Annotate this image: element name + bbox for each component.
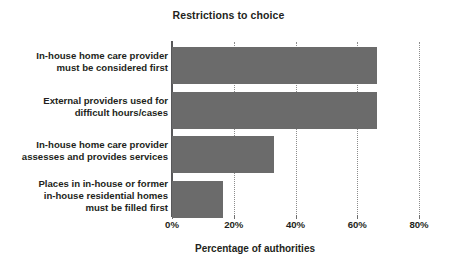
x-tick-label-2: 40%	[266, 219, 326, 230]
x-tick-label-3: 60%	[327, 219, 387, 230]
chart-title: Restrictions to choice	[0, 9, 457, 21]
x-tick-mark-1	[234, 215, 235, 219]
plot-area	[172, 42, 419, 216]
bar-1	[172, 47, 377, 84]
category-label-3: In-house home care provider assesses and…	[4, 139, 168, 163]
gridline-80	[419, 42, 420, 216]
x-axis-tick-labels: 0% 20% 40% 60% 80%	[0, 219, 457, 235]
category-label-3-line-1: In-house home care provider	[36, 139, 168, 150]
x-tick-mark-0	[172, 215, 173, 219]
x-tick-mark-3	[357, 215, 358, 219]
x-tick-mark-4	[419, 215, 420, 219]
bar-4	[172, 181, 223, 218]
category-axis-labels: In-house home care provider must be cons…	[0, 42, 168, 216]
category-label-1-line-1: In-house home care provider	[36, 50, 168, 61]
bar-2	[172, 92, 377, 129]
category-label-2-line-2: difficult hours/cases	[75, 107, 168, 118]
x-tick-label-1: 20%	[204, 219, 264, 230]
category-label-2: External providers used for difficult ho…	[4, 95, 168, 119]
category-label-4: Places in in-house or former in-house re…	[4, 178, 168, 213]
category-label-3-line-2: assesses and provides services	[22, 151, 168, 162]
x-tick-mark-2	[296, 215, 297, 219]
category-label-4-line-3: must be filled first	[85, 202, 168, 213]
category-label-4-line-2: in-house residential homes	[44, 190, 168, 201]
category-label-1-line-2: must be considered first	[57, 62, 168, 73]
category-label-1: In-house home care provider must be cons…	[4, 50, 168, 74]
category-label-4-line-1: Places in in-house or former	[38, 178, 168, 189]
x-tick-label-0: 0%	[142, 219, 202, 230]
x-tick-label-4: 80%	[389, 219, 449, 230]
bar-chart: Restrictions to choice In-house home car…	[0, 0, 457, 267]
x-axis-title: Percentage of authorities	[90, 243, 420, 254]
bar-3	[172, 136, 274, 173]
category-label-2-line-1: External providers used for	[43, 95, 168, 106]
